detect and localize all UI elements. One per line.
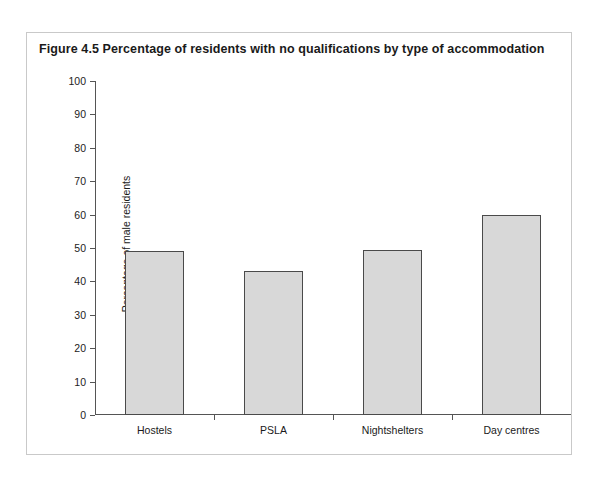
bar — [363, 250, 423, 415]
y-axis-tick — [90, 382, 95, 383]
y-axis-tick-label: 40 — [74, 275, 86, 287]
y-axis-line — [95, 81, 96, 415]
y-axis-tick — [90, 315, 95, 316]
y-axis-tick — [90, 81, 95, 82]
x-axis-category-label: Nightshelters — [362, 424, 423, 436]
figure-title: Figure 4.5 Percentage of residents with … — [39, 42, 545, 56]
y-axis-tick-label: 100 — [68, 75, 86, 87]
y-axis-tick-label: 10 — [74, 376, 86, 388]
y-axis-tick — [90, 114, 95, 115]
x-axis-category-label: Hostels — [137, 424, 172, 436]
y-axis-tick — [90, 248, 95, 249]
y-axis-tick-label: 0 — [80, 409, 86, 421]
x-axis-tick — [452, 415, 453, 420]
bar — [244, 271, 304, 415]
y-axis-tick — [90, 281, 95, 282]
y-axis-tick — [90, 215, 95, 216]
y-axis-tick-label: 20 — [74, 342, 86, 354]
x-axis-tick — [214, 415, 215, 420]
y-axis-tick-label: 80 — [74, 142, 86, 154]
y-axis-tick-label: 90 — [74, 108, 86, 120]
x-axis-tick — [333, 415, 334, 420]
figure-container: Figure 4.5 Percentage of residents with … — [26, 32, 572, 455]
y-axis-tick — [90, 148, 95, 149]
y-axis-tick-label: 70 — [74, 175, 86, 187]
plot-area: 0102030405060708090100 HostelsPSLANights… — [95, 81, 571, 415]
y-axis-tick — [90, 348, 95, 349]
bar — [482, 215, 542, 415]
y-axis-tick-label: 30 — [74, 309, 86, 321]
bar — [125, 251, 185, 415]
y-axis-tick — [90, 181, 95, 182]
x-axis-category-label: PSLA — [260, 424, 287, 436]
x-axis-category-label: Day centres — [483, 424, 539, 436]
y-axis-tick — [90, 415, 95, 416]
y-axis-tick-label: 60 — [74, 209, 86, 221]
y-axis-tick-label: 50 — [74, 242, 86, 254]
